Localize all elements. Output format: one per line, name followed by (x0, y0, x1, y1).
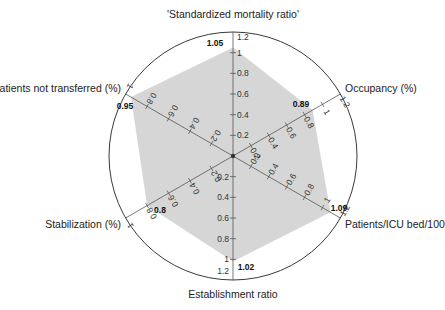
tick-label: 1 (124, 221, 135, 230)
tick-label: 0.4 (217, 192, 229, 202)
radar-chart: 0.20.40.60.811.20.20.40.60.811.20.20.40.… (0, 0, 445, 310)
tick-mark (321, 102, 324, 107)
axis-title-stabilization: Stabilization (%) (45, 218, 121, 230)
axis-title-not-transferred: Patients not transferred (%) (0, 82, 121, 94)
tick-label: 1 (224, 254, 229, 264)
value-label-not-transferred: 0.95 (117, 101, 134, 111)
tick-label: 0.2 (237, 130, 249, 140)
tick-label: 1.2 (217, 266, 229, 276)
value-label-icu: 1.09 (331, 203, 348, 213)
axis-title-occupancy: Occupancy (%) (345, 82, 417, 94)
tick-label: 1 (237, 48, 242, 58)
tick-label: 1 (124, 82, 135, 91)
tick-label: 1.2 (338, 94, 353, 109)
tick-label: 0.6 (217, 213, 229, 223)
value-label-establishment: 1.02 (238, 262, 255, 272)
axis-title-establishment: Establishment ratio (188, 288, 277, 300)
value-label-stabilization: 0.8 (154, 205, 166, 215)
tick-label: 1 (321, 108, 332, 117)
tick-label: 0.4 (237, 110, 249, 120)
value-label-occupancy: 0.89 (293, 99, 310, 109)
tick-label: 0.6 (237, 89, 249, 99)
axis-title-smr: 'Standardized mortality ratio' (167, 8, 299, 20)
value-label-smr: 1.05 (207, 38, 224, 48)
tick-label: 0.8 (237, 68, 249, 78)
tick-label: 1.2 (237, 32, 249, 42)
center-point (231, 154, 235, 158)
tick-label: 0.8 (217, 234, 229, 244)
axis-title-icu: Patients/ICU bed/100 (345, 218, 445, 230)
